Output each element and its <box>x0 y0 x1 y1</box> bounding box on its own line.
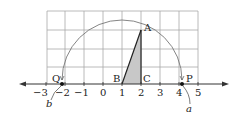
arrow-right-icon <box>222 82 229 87</box>
leader-a <box>183 86 190 104</box>
label-q: Q <box>52 73 60 84</box>
tick-label: −3 <box>33 87 48 98</box>
tick-label: 1 <box>119 87 125 98</box>
tick-label: 2 <box>138 87 144 98</box>
tick-label: −2 <box>55 87 70 98</box>
point-p <box>180 82 184 86</box>
tick-label: 5 <box>195 87 201 98</box>
tick-label: 0 <box>100 87 106 98</box>
annotation-b: b <box>46 98 52 109</box>
label-a: A <box>143 22 152 33</box>
label-c: C <box>143 73 151 84</box>
label-p: P <box>186 73 193 84</box>
number-line-diagram: −3 −2 −1 0 1 2 3 4 5 A B C P Q b a <box>0 0 239 113</box>
tick-label: −1 <box>74 87 89 98</box>
tick-label: 4 <box>176 87 182 98</box>
grid <box>47 11 198 84</box>
point-q <box>60 82 64 86</box>
arrow-left-icon <box>19 82 26 87</box>
annotation-a: a <box>186 103 192 113</box>
diagram-svg: −3 −2 −1 0 1 2 3 4 5 A B C P Q b a <box>0 0 239 113</box>
tick-label: 3 <box>157 87 163 98</box>
label-b: B <box>113 73 120 84</box>
